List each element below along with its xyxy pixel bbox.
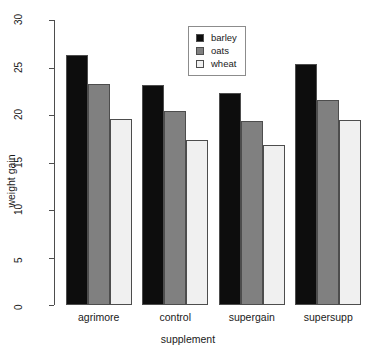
legend-item-barley: barley [196, 32, 237, 44]
x-axis-title: supplement [0, 333, 376, 345]
x-tick-label-control: control [159, 311, 191, 323]
legend-label: wheat [211, 59, 236, 69]
legend-item-oats: oats [196, 45, 237, 57]
x-tick-label-agrimore: agrimore [78, 311, 119, 323]
legend-label: oats [211, 46, 229, 56]
legend-item-wheat: wheat [196, 58, 237, 70]
legend-swatch-icon [196, 34, 204, 42]
x-tick-label-supersupp: supersupp [304, 311, 353, 323]
x-tick-label-supergain: supergain [229, 311, 275, 323]
legend-swatch-icon [196, 47, 204, 55]
legend-swatch-icon [196, 60, 204, 68]
legend: barleyoatswheat [188, 26, 246, 76]
legend-label: barley [211, 33, 237, 43]
bar-chart: 051015202530 weight gain agrimorecontrol… [0, 0, 376, 361]
